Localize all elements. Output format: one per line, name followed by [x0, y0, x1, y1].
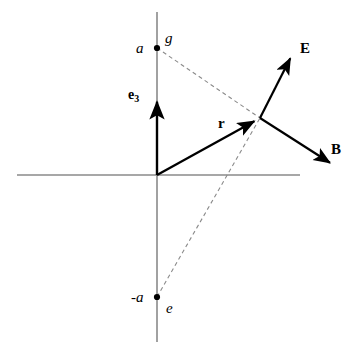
- label-position-vector-r: r: [218, 116, 225, 131]
- label-charge-g: g: [165, 31, 173, 46]
- vector-field-diagram: a g -a e e3 r E B: [0, 0, 362, 352]
- position-vector-r-arrow: [157, 121, 254, 175]
- label-charge-position-minus-a: -a: [131, 290, 144, 305]
- charge-g-dot: [154, 45, 160, 51]
- dashed-line-from-g-icon: [157, 48, 260, 118]
- electric-field-vector-E-arrow: [260, 58, 290, 118]
- label-magnetic-field-vector-B: B: [331, 142, 341, 157]
- label-unit-vector-e3-subscript: 3: [134, 93, 139, 104]
- label-electric-field-vector-E: E: [300, 41, 310, 56]
- magnetic-field-vector-B-arrow: [260, 118, 330, 163]
- charge-e-dot: [154, 294, 160, 300]
- label-unit-vector-e3: e3: [128, 88, 139, 104]
- dashed-line-from-e-icon: [157, 118, 260, 297]
- label-charge-e: e: [166, 301, 173, 316]
- label-charge-position-a: a: [136, 41, 144, 56]
